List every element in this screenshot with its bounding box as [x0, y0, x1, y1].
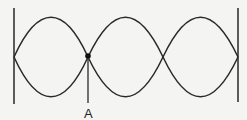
node-point-a [85, 53, 91, 59]
wave-upper [14, 17, 238, 97]
wave-lower [14, 17, 238, 97]
point-label-a: A [84, 106, 93, 120]
standing-wave-diagram: A [0, 0, 247, 120]
